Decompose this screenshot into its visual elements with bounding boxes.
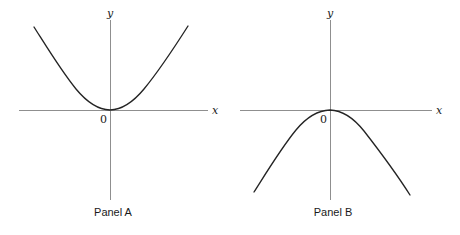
panel-b-origin-label: 0 [320,114,327,125]
panel-b: y x 0 Panel B [230,0,460,235]
panel-a-x-axis-label: x [212,105,218,116]
panel-a-plot [0,0,230,235]
panel-b-x-axis-label: x [436,105,442,116]
panel-a-origin-label: 0 [100,114,107,125]
panel-a-caption: Panel A [94,207,132,218]
panel-a-y-axis-label: y [107,8,113,19]
figure-root: y x 0 Panel A y x 0 Panel B [0,0,460,235]
panel-b-parabola-curve [254,110,410,195]
panel-b-y-axis-label: y [327,8,333,19]
panel-b-plot [230,0,460,235]
panel-b-caption: Panel B [314,207,353,218]
panel-a: y x 0 Panel A [0,0,230,235]
